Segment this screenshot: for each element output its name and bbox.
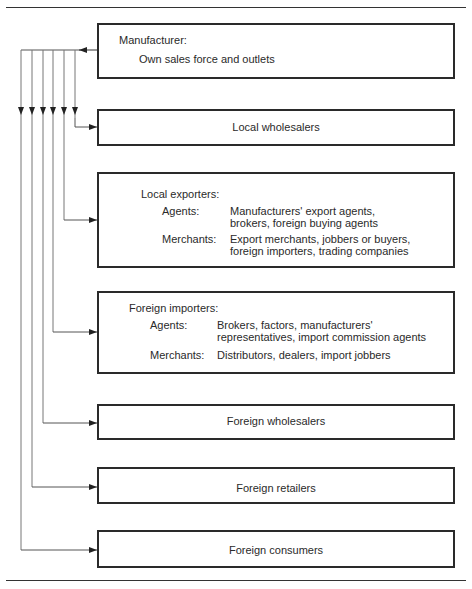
- foreign-consumers-label: Foreign consumers: [99, 544, 453, 556]
- local-wholesalers-box: Local wholesalers: [97, 109, 455, 146]
- local-wholesalers-label: Local wholesalers: [99, 121, 453, 133]
- foreign-wholesalers-box: Foreign wholesalers: [97, 404, 455, 440]
- manufacturer-box: Manufacturer: Own sales force and outlet…: [97, 23, 455, 79]
- foreign-importers-merchants-line1: Distributors, dealers, import jobbers: [217, 349, 391, 362]
- foreign-retailers-box: Foreign retailers: [97, 467, 455, 504]
- foreign-consumers-box: Foreign consumers: [97, 530, 455, 568]
- local-exporters-agents-label: Agents:: [162, 205, 199, 218]
- local-exporters-agents-line2: brokers, foreign buying agents: [230, 217, 378, 230]
- foreign-importers-box: Foreign importers: Agents: Brokers, fact…: [97, 291, 455, 374]
- foreign-wholesalers-label: Foreign wholesalers: [99, 415, 453, 427]
- foreign-importers-agents-line2: representatives, import commission agent…: [217, 331, 426, 344]
- foreign-importers-agents-label: Agents:: [150, 319, 187, 332]
- local-exporters-box: Local exporters: Agents: Manufacturers' …: [97, 172, 455, 268]
- local-exporters-merchants-label: Merchants:: [162, 233, 216, 246]
- foreign-importers-title: Foreign importers:: [129, 302, 218, 315]
- foreign-retailers-label: Foreign retailers: [99, 482, 453, 494]
- foreign-importers-merchants-label: Merchants:: [150, 349, 204, 362]
- manufacturer-title: Manufacturer:: [119, 34, 187, 47]
- manufacturer-detail: Own sales force and outlets: [139, 53, 275, 66]
- local-exporters-title: Local exporters:: [141, 188, 219, 201]
- local-exporters-merchants-line2: foreign importers, trading companies: [230, 245, 409, 258]
